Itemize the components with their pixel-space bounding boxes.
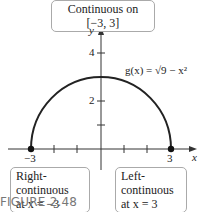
- right-box-line2: at x = 3: [121, 197, 181, 211]
- y-tick-4: 4: [89, 46, 95, 58]
- function-label: g(x) = √9 − x²: [125, 64, 187, 76]
- y-axis-label: y: [89, 24, 94, 36]
- continuous-label: Continuous on [−3, 3]: [51, 0, 155, 32]
- y-tick-2: 2: [89, 94, 95, 106]
- left-box-line1: Right-continuous: [16, 169, 84, 197]
- figure-caption: FIGURE 2.48: [0, 195, 77, 209]
- right-box-line1: Left-continuous: [121, 169, 181, 197]
- x-axis-label: x: [192, 151, 197, 163]
- x-tick-neg3: −3: [24, 152, 36, 164]
- x-tick-3: 3: [167, 152, 173, 164]
- left-continuous-box: Left-continuous at x = 3: [115, 167, 187, 212]
